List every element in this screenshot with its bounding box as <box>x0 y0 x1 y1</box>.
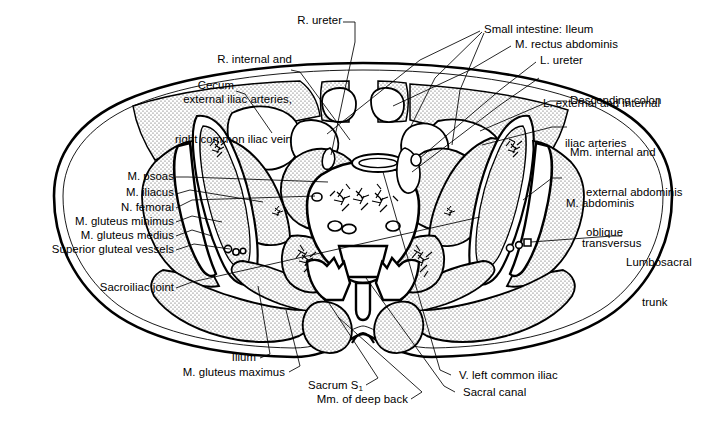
label-m-gluteus-medius: M. gluteus medius <box>20 229 174 242</box>
label-m-gluteus-maximus: M. gluteus maximus <box>135 366 285 379</box>
lumbosacral-trunk-nerve <box>524 239 531 246</box>
lumbosacral-trunk-vessel-2 <box>516 242 523 249</box>
label-iliac-vessels: R. internal and external iliac arteries,… <box>60 26 292 173</box>
figure-page: R. internal and external iliac arteries,… <box>0 0 726 433</box>
l-ureter-vessel <box>411 154 421 166</box>
label-oblique-line1: Mm. internal and <box>570 146 683 159</box>
label-lumbosacral-line1: Lumbosacral <box>626 256 692 269</box>
label-iliac-vessels-line2: external iliac arteries, <box>60 93 292 106</box>
label-m-iliacus: M. iliacus <box>40 186 174 199</box>
label-sacroiliac-joint: Sacroiliac joint <box>40 281 174 294</box>
superior-gluteal-vessel-3 <box>240 248 246 254</box>
label-small-intestine-ileum: Small intestine: Ileum <box>484 23 593 36</box>
label-iliac-vessels-line3: right common iliac vein <box>60 133 292 146</box>
label-sacrum-s1: Sacrum S1 <box>245 379 363 393</box>
lumbosacral-trunk-vessel-1 <box>506 244 513 251</box>
label-l-ureter: L. ureter <box>540 54 583 67</box>
label-n-femoral: N. femoral <box>40 201 174 214</box>
iliac-vessel-small-right-2 <box>342 224 356 233</box>
label-lumbosacral-line2: trunk <box>626 296 692 309</box>
label-descending-colon: Descending colon <box>570 94 661 107</box>
label-cecum: Cecum <box>100 79 234 92</box>
label-sacral-canal: Sacral canal <box>463 386 526 399</box>
iliac-vessel-small-right-1 <box>328 221 342 231</box>
superior-gluteal-vessel-2 <box>233 249 239 255</box>
label-r-ureter: R. ureter <box>230 14 342 27</box>
label-sacrum-text: Sacrum S <box>308 379 358 391</box>
label-m-rectus-abdominis: M. rectus abdominis <box>515 38 618 51</box>
label-v-left-common-iliac: V. left common iliac <box>459 369 558 382</box>
label-iliac-vessels-line1: R. internal and <box>60 53 292 66</box>
label-sacrum-subscript: 1 <box>359 384 364 393</box>
label-m-gluteus-minimus: M. gluteus minimus <box>20 215 174 228</box>
label-transversus-line1: M. abdominis <box>566 197 641 210</box>
v-left-common-iliac-inner <box>359 158 397 167</box>
sacral-spinous-process <box>356 283 370 320</box>
label-mm-of-deep-back: Mm. of deep back <box>210 393 408 406</box>
rectus-abdominis-left <box>371 88 404 122</box>
label-ilium: Ilium <box>160 351 256 364</box>
femoral-vessel-right <box>312 193 322 201</box>
label-superior-gluteal-vessels: Superior gluteal vessels <box>8 243 174 256</box>
label-m-psoas: M. psoas <box>40 170 174 183</box>
label-lumbosacral-trunk: Lumbosacral trunk <box>626 229 692 336</box>
